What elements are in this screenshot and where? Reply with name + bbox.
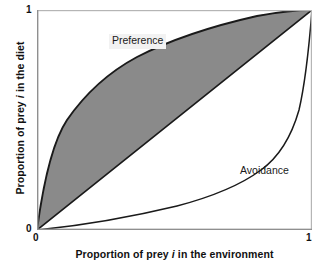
y-axis-label-italic-i: i — [14, 95, 26, 98]
y-tick-label-0: 0 — [26, 224, 32, 234]
y-axis-label-prefix: Proportion of prey — [14, 98, 26, 194]
x-tick-label-1: 1 — [306, 233, 312, 243]
y-tick-label-1: 1 — [26, 5, 32, 15]
x-axis-label: Proportion of prey i in the environment — [37, 248, 312, 260]
y-axis-label: Proportion of prey i in the diet — [14, 3, 26, 233]
region-label-preference: Preference — [109, 34, 166, 49]
x-axis-label-prefix: Proportion of prey — [75, 248, 171, 260]
x-tick-label-0: 0 — [33, 233, 39, 243]
figure-container: Proportion of prey i in the diet 1 0 0 1… — [0, 0, 324, 265]
plot-area: Preference Avoidance — [37, 10, 312, 230]
x-axis-label-suffix: in the environment — [175, 248, 274, 260]
y-axis-label-suffix: in the diet — [14, 41, 26, 95]
region-label-avoidance: Avoidance — [240, 165, 289, 177]
plot-svg — [37, 10, 312, 230]
